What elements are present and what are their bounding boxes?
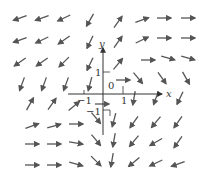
vector-arrow	[135, 18, 148, 23]
vector-arrow	[130, 116, 138, 127]
vector-arrow	[174, 136, 182, 147]
vector-arrow	[111, 153, 113, 167]
x-axis-label: x	[166, 88, 172, 99]
y-tick-label-1: 1	[95, 67, 101, 78]
vector-arrow	[64, 77, 69, 90]
vector-arrow	[171, 162, 184, 167]
vector-arrow	[92, 135, 101, 146]
vector-arrow	[134, 73, 143, 84]
vector-arrow	[87, 36, 93, 49]
vector-arrow	[69, 142, 83, 144]
vector-arrow	[20, 77, 25, 90]
vector-arrow	[114, 59, 123, 70]
vector-arrow	[13, 16, 26, 21]
vector-arrow	[181, 56, 195, 60]
vector-arrow	[87, 14, 94, 26]
vector-arrow	[47, 124, 61, 128]
vector-arrow	[58, 15, 71, 21]
vector-arrow	[177, 92, 183, 105]
vector-arrow	[114, 36, 122, 47]
y-tick-label-neg1: −1	[86, 106, 101, 117]
vector-arrow	[14, 58, 25, 66]
vector-arrow	[158, 72, 166, 83]
vector-arrow	[152, 117, 161, 128]
vector-arrow	[114, 16, 122, 27]
vector-arrow	[91, 156, 101, 166]
vector-arrow	[25, 124, 38, 129]
vector-arrow	[58, 36, 69, 44]
vector-arrow	[48, 98, 56, 109]
vector-arrow	[133, 91, 135, 105]
vector-arrow	[136, 37, 149, 43]
vector-arrow	[36, 37, 49, 43]
vector-arrow	[150, 160, 163, 166]
vector-arrow	[112, 113, 116, 127]
vector-arrow	[13, 38, 26, 43]
vector-arrow	[35, 16, 48, 21]
origin-label: 0	[108, 80, 114, 91]
vector-arrow	[154, 91, 159, 104]
y-axis-label: y	[98, 38, 105, 49]
vector-arrow	[36, 58, 47, 66]
vector-arrow	[27, 98, 34, 110]
vector-arrow	[87, 58, 93, 71]
vector-arrow	[69, 162, 83, 166]
vector-arrow	[88, 77, 92, 91]
vector-arrow	[161, 56, 175, 60]
vector-arrow	[150, 139, 162, 146]
vector-arrow	[59, 57, 69, 67]
vector-arrow	[130, 136, 139, 147]
vector-arrow	[129, 158, 140, 167]
vector-arrow	[113, 133, 115, 147]
vector-arrow	[183, 72, 190, 84]
vector-field-diagram: y x 1 0 1 −1 −1	[0, 0, 207, 183]
vector-arrow	[174, 116, 182, 127]
x-tick-label-neg1: −1	[77, 95, 92, 106]
x-tick-label-1: 1	[121, 95, 127, 106]
vector-arrow	[42, 77, 47, 90]
